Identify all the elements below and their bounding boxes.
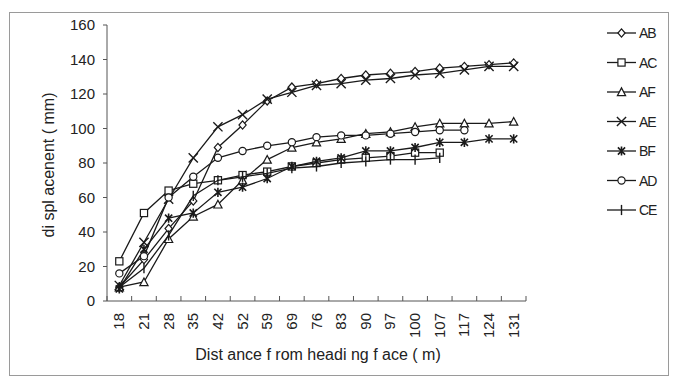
square-marker-icon xyxy=(618,59,625,66)
y-tick-label: 140 xyxy=(70,51,95,68)
x-tick-label: 124 xyxy=(480,313,497,338)
legend-item-bf: BF xyxy=(607,143,655,159)
square-marker-icon xyxy=(165,187,172,194)
circle-marker-icon xyxy=(190,173,197,180)
series-ce xyxy=(119,153,439,293)
legend-item-ce: CE xyxy=(607,202,657,218)
circle-marker-icon xyxy=(313,134,320,141)
x-marker-icon xyxy=(213,122,222,131)
y-tick-label: 60 xyxy=(78,189,95,206)
legend: ABACAFAEBFADCE xyxy=(607,25,657,218)
legend-item-ae: AE xyxy=(607,114,656,130)
triangle-marker-icon xyxy=(263,155,271,163)
legend-label: CE xyxy=(639,202,657,218)
x-tick-label: 69 xyxy=(283,313,300,330)
x-tick-label: 18 xyxy=(110,313,127,330)
circle-marker-icon xyxy=(436,127,443,134)
circle-marker-icon xyxy=(214,154,221,161)
y-axis: 020406080100120140160 xyxy=(70,16,107,309)
diamond-marker-icon xyxy=(618,29,625,37)
series-af xyxy=(115,118,518,291)
y-axis-title: di spl acenent ( mm) xyxy=(40,93,57,238)
x-tick-label: 131 xyxy=(505,313,522,338)
x-tick-label: 97 xyxy=(381,313,398,330)
series-ae xyxy=(115,62,519,290)
circle-marker-icon xyxy=(411,128,418,135)
circle-marker-icon xyxy=(165,194,172,201)
y-tick-label: 100 xyxy=(70,120,95,137)
legend-item-ac: AC xyxy=(607,55,657,71)
circle-marker-icon xyxy=(264,142,271,149)
circle-marker-icon xyxy=(116,270,123,277)
legend-label: AB xyxy=(639,25,656,41)
y-tick-label: 40 xyxy=(78,223,95,240)
legend-label: AE xyxy=(639,114,656,130)
circle-marker-icon xyxy=(288,139,295,146)
x-tick-label: 21 xyxy=(135,313,152,330)
x-tick-label: 59 xyxy=(258,313,275,330)
x-tick-label: 52 xyxy=(234,313,251,330)
x-tick-label: 83 xyxy=(332,313,349,330)
x-axis-title: Dist ance f rom headi ng f ace ( m) xyxy=(195,346,440,363)
series-bf xyxy=(116,134,518,293)
line-chart: 020406080100120140160 182128354252596976… xyxy=(0,0,676,389)
x-marker-icon xyxy=(238,110,247,119)
x-tick-label: 100 xyxy=(406,313,423,338)
legend-item-ab: AB xyxy=(607,25,656,41)
legend-label: BF xyxy=(639,143,655,159)
circle-marker-icon xyxy=(140,253,147,260)
x-tick-label: 117 xyxy=(455,313,472,337)
legend-label: AF xyxy=(639,84,655,100)
x-tick-label: 35 xyxy=(184,313,201,330)
legend-label: AD xyxy=(639,173,657,189)
circle-marker-icon xyxy=(239,147,246,154)
square-marker-icon xyxy=(116,258,123,265)
y-tick-label: 80 xyxy=(78,154,95,171)
y-tick-label: 120 xyxy=(70,85,95,102)
triangle-marker-icon xyxy=(140,278,148,286)
legend-item-af: AF xyxy=(607,84,655,100)
circle-marker-icon xyxy=(387,130,394,137)
series-layer xyxy=(115,59,519,294)
circle-marker-icon xyxy=(338,132,345,139)
x-axis: 182128354252596976839097100107117124131 xyxy=(107,296,526,338)
legend-item-ad: AD xyxy=(607,173,657,189)
y-tick-label: 160 xyxy=(70,16,95,33)
y-tick-label: 20 xyxy=(78,258,95,275)
series-ab xyxy=(116,59,518,291)
x-tick-label: 28 xyxy=(160,313,177,330)
x-tick-label: 76 xyxy=(308,313,325,330)
x-tick-label: 107 xyxy=(431,313,448,338)
square-marker-icon xyxy=(190,180,197,187)
legend-label: AC xyxy=(639,55,657,71)
circle-marker-icon xyxy=(461,127,468,134)
circle-marker-icon xyxy=(362,132,369,139)
x-tick-label: 90 xyxy=(357,313,374,330)
x-marker-icon xyxy=(189,153,198,162)
y-tick-label: 0 xyxy=(87,292,95,309)
x-tick-label: 42 xyxy=(209,313,226,330)
square-marker-icon xyxy=(140,209,147,216)
circle-marker-icon xyxy=(618,177,625,184)
